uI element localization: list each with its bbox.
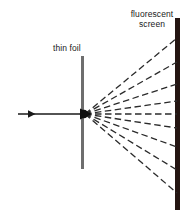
thin-foil-label: thin foil	[53, 43, 81, 53]
scattered-ray-down-1	[85, 114, 177, 128]
fluorescent-screen-label-line1: fluorescent	[131, 9, 174, 19]
scattering-diagram-figure: fluorescent screen thin foil	[0, 0, 193, 223]
scattered-ray-up-1	[85, 101, 177, 114]
scattered-rays-group	[85, 38, 177, 193]
scattering-point-core	[80, 110, 88, 118]
scattered-ray-down-4	[85, 114, 177, 193]
scattered-ray-up-4	[85, 38, 177, 114]
diagram-canvas	[0, 0, 193, 223]
beam-arrowhead-icon	[28, 110, 36, 118]
fluorescent-screen-label: fluorescent screen	[126, 9, 178, 29]
fluorescent-screen-label-line2: screen	[126, 19, 178, 29]
